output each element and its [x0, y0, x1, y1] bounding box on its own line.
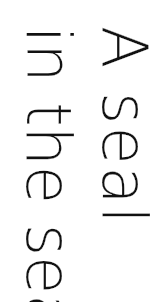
text-line-in-the-sea: in the sea... — [17, 26, 79, 302]
text-line-a-seal: A seal — [93, 26, 153, 226]
rotated-text-block: A seal in the sea... — [0, 0, 153, 302]
